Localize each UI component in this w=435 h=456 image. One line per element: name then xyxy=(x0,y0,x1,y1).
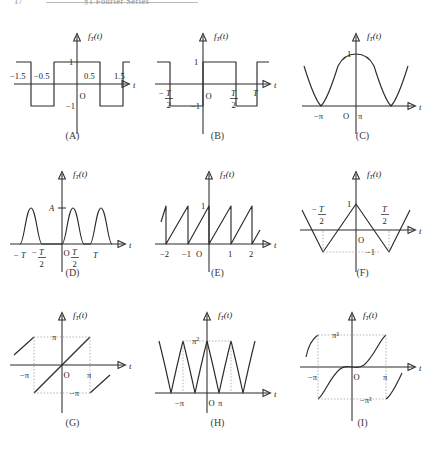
x-axis-label: t xyxy=(129,240,132,250)
svg-text:2: 2 xyxy=(232,100,236,110)
x-axis-label: t xyxy=(274,240,277,250)
panel-d-caption: (D) xyxy=(0,267,145,278)
panel-g-caption: (G) xyxy=(0,417,145,428)
panel-h: fT(t) t π2 O −π π (H) xyxy=(145,289,290,456)
origin-label: O xyxy=(80,91,86,101)
x-axis-label: t xyxy=(274,80,277,90)
panel-d: fT(t) t A O − T − T 2 T 2 xyxy=(0,152,145,289)
ytick-A: A xyxy=(48,203,55,213)
ytick-neg-pi-cubed: −π³ xyxy=(360,395,372,405)
y-axis-label: fT(t) xyxy=(73,310,87,321)
xtick-2: 2 xyxy=(249,249,253,259)
y-axis-label: fT(t) xyxy=(367,31,381,42)
figure-page: 17 §1 Fourier Series fT(t) t O xyxy=(0,0,435,456)
svg-text:−: − xyxy=(32,247,37,257)
ytick-neg1: −1 xyxy=(191,101,200,111)
panel-g-plot: fT(t) t π −π O −π π xyxy=(0,289,145,456)
ytick-neg-pi: −π xyxy=(70,388,80,398)
origin-label: O xyxy=(354,372,360,382)
origin-label: O xyxy=(358,235,364,245)
xtick-negT-over-2: − T 2 xyxy=(32,247,46,269)
x-axis-label: t xyxy=(129,361,132,371)
curve-sawtooth xyxy=(161,206,260,244)
xtick-neg1p5: −1.5 xyxy=(10,71,25,81)
svg-text:T: T xyxy=(39,247,45,257)
origin-label: O xyxy=(64,248,70,258)
svg-text:2: 2 xyxy=(383,216,387,226)
xtick-neg-pi: −π xyxy=(20,370,30,380)
ytick-pos1: 1 xyxy=(69,57,73,67)
xtick-T-over-2: T 2 xyxy=(230,88,238,110)
ytick-neg1: −1 xyxy=(366,247,375,257)
ytick-neg1: −1 xyxy=(66,101,75,111)
y-axis-label: fT(t) xyxy=(218,310,232,321)
panel-e: fT(t) t 1 O −2 −1 1 2 (E) xyxy=(145,152,290,289)
axes xyxy=(155,34,271,135)
xtick-1p5: 1.5 xyxy=(114,71,125,81)
ytick-pi: π xyxy=(52,332,57,342)
x-axis-label: t xyxy=(419,226,422,236)
panel-f-caption: (F) xyxy=(290,267,435,278)
svg-text:T: T xyxy=(166,88,172,98)
y-axis-label: fT(t) xyxy=(88,31,102,42)
xtick-negT: − T xyxy=(14,250,27,260)
origin-label: O xyxy=(196,249,202,259)
svg-text:−: − xyxy=(159,88,164,98)
xtick-T-over-2: T 2 xyxy=(71,247,79,269)
panel-c: fT(t) t O −π π 1 (C) xyxy=(290,12,435,152)
panel-b-caption: (B) xyxy=(145,130,290,141)
xtick-negT-over-2: − T 2 xyxy=(159,88,173,110)
svg-text:2: 2 xyxy=(167,100,171,110)
axes xyxy=(300,313,416,422)
xtick-pi: π xyxy=(383,372,388,382)
folio-number: 17 xyxy=(14,0,23,6)
xtick-1: 1 xyxy=(228,249,232,259)
origin-label: O xyxy=(343,111,349,121)
y-axis-label: fT(t) xyxy=(214,31,228,42)
xtick-pi: π xyxy=(87,370,92,380)
panel-h-plot: fT(t) t π2 O −π π xyxy=(145,289,290,456)
xtick-T: T xyxy=(93,250,99,260)
y-axis-label: fT(t) xyxy=(220,169,234,180)
y-axis-label: fT(t) xyxy=(363,310,377,321)
panel-i-caption: (I) xyxy=(290,417,435,428)
ytick-pi-squared: π2 xyxy=(192,336,199,346)
ytick-pos1: 1 xyxy=(347,49,351,59)
curve-half-wave-rectified-sine xyxy=(20,208,112,244)
panel-g: fT(t) t π −π O −π π (G) xyxy=(0,289,145,456)
y-axis-label: fT(t) xyxy=(367,169,381,180)
x-axis-label: t xyxy=(419,363,422,373)
xtick-negT-over-2: − T 2 xyxy=(312,204,326,226)
axes xyxy=(10,313,126,414)
origin-label: O xyxy=(206,91,212,101)
panel-f: fT(t) t 1 −1 O − T 2 T 2 (F) xyxy=(290,152,435,289)
svg-text:−: − xyxy=(312,204,317,214)
ytick-pos1: 1 xyxy=(194,57,198,67)
svg-text:T: T xyxy=(21,250,27,260)
xtick-neg-pi: −π xyxy=(308,372,318,382)
xtick-neg2: −2 xyxy=(160,249,169,259)
svg-text:−: − xyxy=(14,250,19,260)
panel-b: fT(t) t O − T 2 T 2 T 1 −1 (B) xyxy=(145,12,290,152)
svg-text:T: T xyxy=(72,247,78,257)
origin-label: O xyxy=(209,398,215,408)
panel-e-caption: (E) xyxy=(145,267,290,278)
x-axis-label: t xyxy=(133,80,136,90)
xtick-0p5: 0.5 xyxy=(84,71,95,81)
panel-h-caption: (H) xyxy=(145,417,290,428)
xtick-neg0p5: −0.5 xyxy=(34,71,49,81)
panel-a: fT(t) t O −1.5 −0.5 0.5 1.5 1 −1 (A) xyxy=(0,12,145,152)
svg-text:T: T xyxy=(319,204,325,214)
x-axis-label: t xyxy=(274,389,277,399)
panel-i-plot: fT(t) t π³ −π³ O −π π xyxy=(290,289,435,456)
ytick-pos1: 1 xyxy=(347,199,351,209)
xtick-T-over-2: T 2 xyxy=(381,204,389,226)
xtick-neg-pi: −π xyxy=(175,398,185,408)
xtick-pi: π xyxy=(358,111,363,121)
xtick-pi: π xyxy=(218,398,223,408)
ytick-pi-cubed: π³ xyxy=(332,330,339,340)
panel-a-caption: (A) xyxy=(0,130,145,141)
xtick-neg-pi: −π xyxy=(314,111,324,121)
panel-grid: fT(t) t O −1.5 −0.5 0.5 1.5 1 −1 (A) xyxy=(0,12,435,456)
svg-text:T: T xyxy=(382,204,388,214)
